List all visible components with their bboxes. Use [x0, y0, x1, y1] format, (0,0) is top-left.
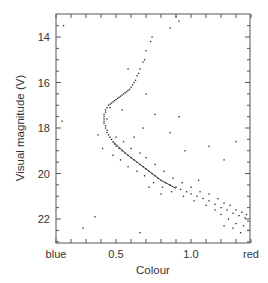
star-point: [108, 105, 109, 106]
star-point: [106, 118, 107, 119]
y-tick-label: 14: [38, 31, 50, 43]
star-point: [138, 73, 139, 74]
star-point: [144, 59, 145, 60]
star-point: [127, 166, 128, 167]
star-point: [171, 191, 172, 192]
x-tick-label: blue: [46, 248, 67, 260]
star-point: [240, 232, 241, 233]
star-point: [228, 218, 229, 219]
star-point: [184, 150, 185, 151]
star-point: [220, 214, 221, 215]
star-point: [130, 148, 131, 149]
star-point: [243, 225, 244, 226]
star-point: [154, 164, 155, 165]
star-point: [105, 111, 106, 112]
star-point: [145, 157, 146, 158]
star-point: [139, 68, 140, 69]
x-axis-ticks: blue0.51.0red: [46, 14, 259, 260]
star-point: [208, 200, 209, 201]
star-point: [199, 191, 200, 192]
star-point: [127, 90, 128, 91]
star-point: [61, 121, 62, 122]
star-point: [126, 91, 127, 92]
star-point: [139, 232, 140, 233]
star-point: [208, 146, 209, 147]
star-point: [133, 137, 134, 138]
y-tick-label: 22: [38, 213, 50, 225]
star-point: [208, 193, 209, 194]
star-point: [150, 41, 151, 42]
y-tick-label: 18: [38, 122, 50, 134]
star-point: [63, 25, 64, 26]
star-point: [247, 221, 248, 222]
y-axis-ticks: 1416182022: [38, 26, 250, 242]
star-point: [196, 196, 197, 197]
star-point: [223, 159, 224, 160]
star-point: [123, 141, 124, 142]
star-point: [223, 225, 224, 226]
star-point: [145, 50, 146, 51]
star-points: [61, 16, 248, 233]
star-point: [135, 80, 136, 81]
star-point: [129, 89, 130, 90]
star-point: [114, 100, 115, 101]
star-point: [103, 116, 104, 117]
star-point: [132, 84, 133, 85]
star-point: [202, 198, 203, 199]
star-point: [232, 213, 233, 214]
star-point: [169, 132, 170, 133]
star-point: [172, 177, 173, 178]
star-point: [105, 109, 106, 110]
star-point: [121, 94, 122, 95]
star-point: [105, 127, 106, 128]
plot-frame: [56, 14, 250, 243]
star-point: [136, 75, 137, 76]
star-point: [127, 68, 128, 69]
star-point: [106, 130, 107, 131]
star-point: [214, 209, 215, 210]
star-point: [124, 92, 125, 93]
star-point: [214, 204, 215, 205]
star-point: [130, 86, 131, 87]
star-point: [186, 191, 187, 192]
isochrone-line: [113, 142, 176, 189]
star-point: [223, 202, 224, 203]
star-point: [235, 141, 236, 142]
star-point: [153, 182, 154, 183]
star-point: [220, 207, 221, 208]
star-point: [120, 96, 121, 97]
x-tick-label: red: [243, 248, 259, 260]
star-point: [103, 123, 104, 124]
star-point: [154, 114, 155, 115]
y-tick-label: 16: [38, 77, 50, 89]
star-point: [142, 127, 143, 128]
star-point: [115, 137, 116, 138]
star-point: [103, 114, 104, 115]
star-point: [120, 159, 121, 160]
star-point: [111, 102, 112, 103]
star-point: [108, 134, 109, 135]
star-point: [133, 82, 134, 83]
star-point: [97, 134, 98, 135]
star-point: [180, 189, 181, 190]
star-point: [178, 20, 179, 21]
star-point: [181, 182, 182, 183]
star-point: [241, 212, 242, 213]
star-point: [105, 125, 106, 126]
star-point: [205, 205, 206, 206]
star-point: [94, 216, 95, 217]
star-point: [115, 146, 116, 147]
star-point: [112, 155, 113, 156]
star-point: [115, 99, 116, 100]
star-point: [144, 175, 145, 176]
star-point: [238, 215, 239, 216]
star-point: [198, 180, 199, 181]
star-point: [235, 209, 236, 210]
star-point: [103, 118, 104, 119]
x-tick-label: 1.0: [183, 248, 198, 260]
star-point: [235, 223, 236, 224]
y-axis-label: Visual magnitude (V): [14, 75, 26, 182]
y-tick-label: 20: [38, 168, 50, 180]
color-magnitude-diagram: blue0.51.0red 1416182022 Colour Visual m…: [0, 0, 268, 283]
x-tick-label: 0.5: [108, 248, 123, 260]
